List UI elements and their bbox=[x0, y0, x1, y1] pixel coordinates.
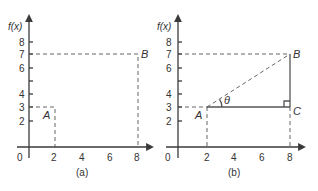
panel-b: f(x) 8 7 6 4 3 2 0 2 4 6 8 θ bbox=[157, 18, 302, 178]
point-a-label: A bbox=[194, 109, 202, 121]
x-tick-label: 2 bbox=[204, 152, 210, 163]
y-tick-label: 4 bbox=[19, 89, 25, 100]
y-tick-label: 4 bbox=[166, 89, 172, 100]
origin-label: 0 bbox=[17, 152, 23, 163]
x-tick-label: 6 bbox=[107, 152, 113, 163]
y-tick-label: 3 bbox=[19, 102, 25, 113]
guide-lines bbox=[178, 54, 290, 147]
y-tick-label: 7 bbox=[166, 49, 172, 60]
caption-b: (b) bbox=[228, 167, 240, 178]
y-tick-label: 2 bbox=[166, 116, 172, 127]
figure: f(x) 8 7 6 4 3 2 0 2 4 6 8 A B (a) bbox=[0, 0, 318, 191]
panel-a: f(x) 8 7 6 4 3 2 0 2 4 6 8 A B (a) bbox=[8, 18, 150, 178]
origin-label: 0 bbox=[165, 152, 171, 163]
y-tick-label: 3 bbox=[166, 102, 172, 113]
y-tick-label: 2 bbox=[19, 116, 25, 127]
x-tick-label: 8 bbox=[134, 152, 140, 163]
point-c-label: C bbox=[293, 105, 301, 117]
hypotenuse-ab bbox=[207, 54, 290, 107]
y-tick-label: 6 bbox=[19, 63, 25, 74]
y-tick-label: 6 bbox=[166, 63, 172, 74]
y-tick-label: 8 bbox=[166, 37, 172, 48]
x-tick-label: 6 bbox=[259, 152, 265, 163]
x-tick-label: 2 bbox=[51, 152, 57, 163]
point-a-label: A bbox=[42, 109, 50, 121]
y-tick-label: 8 bbox=[19, 37, 25, 48]
angle-arc bbox=[220, 99, 222, 107]
point-b-label: B bbox=[141, 48, 148, 60]
caption-a: (a) bbox=[76, 167, 88, 178]
x-tick-label: 8 bbox=[287, 152, 293, 163]
x-tick-label: 4 bbox=[79, 152, 85, 163]
point-b-label: B bbox=[293, 48, 300, 60]
y-axis-title: f(x) bbox=[8, 21, 22, 32]
y-axis-title: f(x) bbox=[157, 21, 171, 32]
y-tick-label: 7 bbox=[19, 49, 25, 60]
guide-lines bbox=[29, 54, 138, 147]
angle-theta-label: θ bbox=[224, 94, 230, 106]
right-angle-marker bbox=[284, 101, 290, 107]
x-tick-label: 4 bbox=[231, 152, 237, 163]
